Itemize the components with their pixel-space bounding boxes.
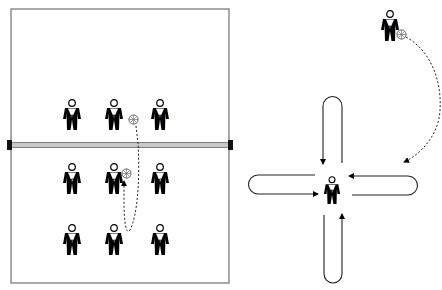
player-c-1: C [63,164,81,194]
player-t-1: T [63,100,81,130]
player-p-2: P [105,225,123,255]
movement-pattern: P T [249,11,441,283]
net [11,143,229,148]
net-post-right [228,140,233,150]
right-loop-arrow [349,176,418,195]
center-player-p: P [324,177,340,204]
net-post-left [7,140,12,150]
volleyball-icon [122,169,131,178]
player-role-label: P [158,238,163,245]
outer-player-t: T [381,11,399,41]
player-c-2: C [105,164,123,194]
player-role-label: C [70,177,75,184]
player-p-3: P [151,225,169,255]
player-p-1: P [63,225,81,255]
player-role-label: P [70,238,75,245]
player-role-label: C [112,177,117,184]
bottom-loop-arrow [324,214,342,283]
ball-arc-arrow [404,37,440,162]
player-role-label: P [330,188,335,195]
left-loop-arrow [249,175,319,194]
player-c-3: C [151,164,169,194]
player-role-label: C [158,177,163,184]
player-t-3: T [151,100,169,130]
volleyball-icon [397,30,406,39]
ball-path-arrow [124,126,139,231]
player-t-2: T [105,100,123,130]
drill-diagram: T T T C C C P P P [0,0,442,290]
top-loop-arrow [323,97,342,165]
volleyball-icon [129,115,138,124]
player-role-label: P [112,238,117,245]
